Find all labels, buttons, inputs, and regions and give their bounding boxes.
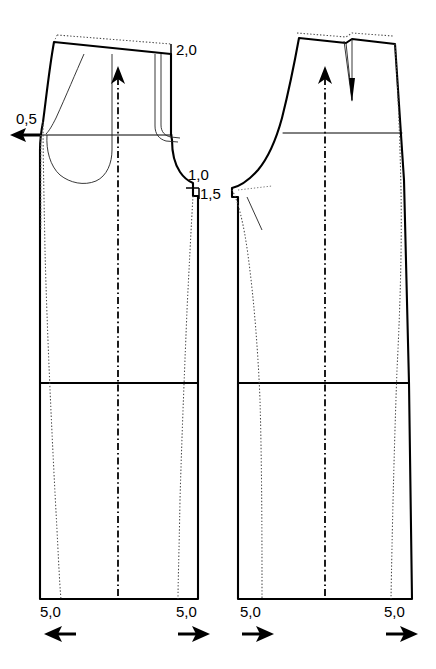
front-fly-outer [155,54,178,142]
front-original-sideseam [178,196,193,599]
arrow-side-seam-left-icon [10,128,40,142]
label-hem-front-sideseam-5-0: 5,0 [176,603,197,620]
front-original-waist-side-tick [54,35,57,42]
back-crotch-dart-line [247,197,262,230]
arrow-hem-front-inseam-icon [44,626,76,642]
pattern-drawing: 2,0 0,5 1,0 1,5 5,0 5,0 5,0 5,0 [0,0,436,669]
label-hem-front-inseam-5-0: 5,0 [40,603,61,620]
front-original-inseam [43,122,61,599]
back-crotch-construction [238,186,272,190]
front-original-waistline [57,35,171,44]
front-pocket-bag [47,135,112,183]
direction-arrows [10,128,418,642]
back-trouser-piece [232,33,412,599]
arrow-hem-back-sideseam-icon [386,626,418,642]
arrow-hem-front-sideseam-icon [178,626,210,642]
back-original-waistline [297,33,393,37]
label-crotch-1-5: 1,5 [200,185,221,202]
label-hem-back-sideseam-5-0: 5,0 [384,603,405,620]
arrow-hem-back-inseam-icon [242,626,274,642]
front-pocket-opening [46,54,84,134]
back-original-sideseam [391,44,401,599]
back-original-inseam [232,190,262,599]
label-crotch-1-0: 1,0 [188,166,209,183]
dimension-labels: 2,0 0,5 1,0 1,5 5,0 5,0 5,0 5,0 [16,41,405,620]
label-side-seam-0-5: 0,5 [16,110,37,127]
pattern-sheet: 2,0 0,5 1,0 1,5 5,0 5,0 5,0 5,0 [0,0,436,669]
back-dart-point-fill [349,78,355,102]
back-piece-outline [232,38,412,599]
label-waist-2-0: 2,0 [176,41,197,58]
front-piece-outline [40,42,198,599]
front-trouser-piece [40,35,198,599]
label-hem-back-inseam-5-0: 5,0 [240,603,261,620]
